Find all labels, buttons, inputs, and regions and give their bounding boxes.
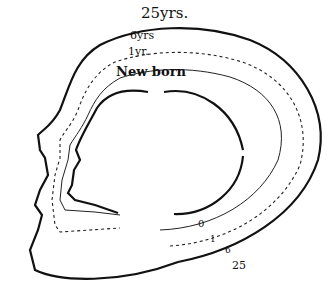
label-1: 1 bbox=[210, 234, 216, 244]
label-0: 0 bbox=[198, 218, 204, 229]
label-1yr: 1yr. bbox=[128, 45, 149, 58]
label-25yrs: 25yrs. bbox=[141, 4, 188, 22]
outline-newborn-lower bbox=[174, 156, 243, 214]
label-25: 25 bbox=[232, 259, 246, 272]
skull-growth-diagram: 25yrs. 6yrs 1yr. New born 0 1 6 25 bbox=[0, 0, 329, 284]
outline-newborn-right bbox=[164, 91, 243, 150]
label-6: 6 bbox=[225, 245, 231, 255]
label-6yrs: 6yrs bbox=[130, 29, 154, 42]
label-newborn: New born bbox=[116, 64, 186, 79]
outline-newborn-left bbox=[68, 91, 148, 213]
outline-1yr bbox=[60, 70, 281, 230]
outline-6yrs bbox=[52, 52, 303, 246]
